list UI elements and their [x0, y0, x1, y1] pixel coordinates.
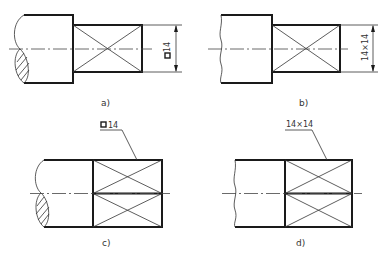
arrow-down-icon	[371, 65, 375, 72]
section-hatch-c	[36, 197, 49, 224]
svg-text:14×14: 14×14	[361, 34, 370, 61]
caption-b: b)	[299, 98, 308, 108]
panel-b: 14×14 b)	[208, 15, 378, 108]
panel-c: 14 c)	[30, 121, 170, 248]
dimension-label-d: 14×14	[286, 120, 313, 129]
square-symbol-icon	[101, 122, 106, 127]
svg-text:14: 14	[163, 42, 172, 52]
panel-a: 14 a)	[9, 15, 182, 108]
arrow-up-icon	[174, 25, 178, 32]
svg-text:14: 14	[108, 121, 118, 130]
caption-a: a)	[101, 98, 110, 108]
arrow-up-icon	[371, 25, 375, 32]
dimension-label-b: 14×14	[361, 34, 370, 61]
arrow-down-icon	[174, 65, 178, 72]
dimension-label-a: 14	[163, 42, 172, 58]
square-symbol-icon	[165, 53, 170, 58]
section-hatch-a	[16, 53, 29, 80]
leader-line-d	[312, 130, 327, 160]
panel-d: 14×14 d)	[222, 120, 362, 248]
technical-drawing: 14 a) 14×14 b)	[0, 0, 387, 256]
caption-d: d)	[296, 238, 305, 248]
leader-line-c	[122, 130, 137, 160]
caption-c: c)	[102, 238, 110, 248]
dimension-label-c: 14	[101, 121, 118, 130]
